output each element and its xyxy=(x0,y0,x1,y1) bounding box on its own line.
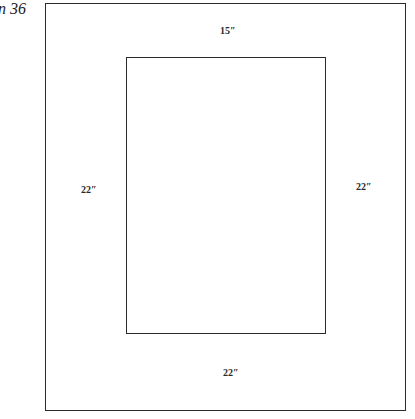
figure-caption: n 36 xyxy=(0,0,26,18)
dimension-label-bottom: 22″ xyxy=(223,367,239,379)
dimension-label-right: 22″ xyxy=(356,181,372,193)
dimension-label-left: 22″ xyxy=(81,184,97,196)
inner-rectangle xyxy=(126,57,326,334)
dimension-label-top: 15″ xyxy=(220,25,236,37)
